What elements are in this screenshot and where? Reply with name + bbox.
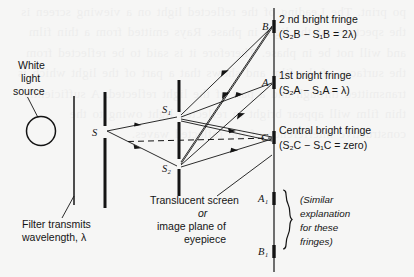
fringe-name-C: Central bright fringe bbox=[279, 124, 371, 136]
lower-fringes-note-line3: for these bbox=[300, 222, 339, 233]
filter-caption-line1: Filter transmits bbox=[22, 218, 91, 230]
lower-slit-label: S₂ bbox=[162, 163, 171, 174]
source-label-line1: White bbox=[18, 59, 45, 71]
lower-fringes-note-line2: explanation bbox=[300, 208, 350, 219]
fringe-point-label-B: B bbox=[262, 21, 269, 32]
screen-caption-line1: Translucent screen bbox=[150, 194, 239, 206]
ray-s-to-s2 bbox=[107, 131, 177, 166]
lower-fringes-note-line1: (Similar bbox=[300, 194, 334, 205]
fringe-name-B: 2 nd bright fringe bbox=[279, 13, 358, 25]
source-leader-line bbox=[28, 97, 39, 118]
ray-s1-to-C bbox=[181, 119, 272, 137]
upper-slit-label: S₁ bbox=[162, 104, 171, 115]
screen-caption-line2: or bbox=[198, 207, 208, 219]
ray-s2-to-A-arrow bbox=[237, 113, 245, 120]
ray-s2-to-upper bbox=[181, 26, 272, 162]
ray-s1-to-A bbox=[181, 83, 272, 117]
lamp-circle-icon bbox=[27, 117, 56, 146]
source-label-line2: light bbox=[21, 72, 40, 84]
source-label-line3: source bbox=[13, 85, 45, 97]
fringe-equation-B: (S₂B − S₁B = 2λ) bbox=[279, 28, 357, 40]
filter-caption-line2: wavelength, λ bbox=[21, 231, 87, 243]
optical-axis-dashed-line bbox=[128, 138, 272, 142]
fringe-point-label-B1: B₁ bbox=[258, 246, 268, 257]
fringe-equation-A: (S₂A − S₁A = λ) bbox=[279, 84, 350, 96]
lower-fringes-brace bbox=[283, 190, 292, 249]
single-slit-label: S bbox=[92, 127, 98, 138]
ray-s2-to-C-arrow bbox=[230, 148, 238, 153]
ray-s-to-s1 bbox=[107, 117, 177, 131]
fringe-equation-C: (S₂C − S₁C = zero) bbox=[279, 139, 367, 151]
lower-fringes-note-line4: fringes) bbox=[300, 236, 333, 247]
ray-s-to-s2-arrow bbox=[134, 145, 142, 149]
screen-caption-line3: image plane of bbox=[157, 220, 226, 232]
fringe-point-label-C: C bbox=[261, 132, 269, 143]
fringe-point-label-A1: A₁ bbox=[257, 193, 268, 204]
young-double-slit-diagram: White light source Filter transmits wave… bbox=[0, 0, 414, 277]
screen-leader-line bbox=[217, 155, 272, 196]
screen-caption-line4: eyepiece bbox=[184, 233, 226, 245]
fringe-point-label-A: A bbox=[261, 77, 269, 88]
fringe-name-A: 1st bright fringe bbox=[279, 69, 352, 81]
filter-leader-line bbox=[62, 196, 74, 218]
